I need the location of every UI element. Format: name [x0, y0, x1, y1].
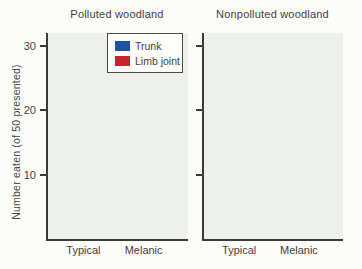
panel-title-nonpolluted: Nonpolluted woodland [202, 8, 343, 20]
y-tick-mark [40, 174, 46, 176]
y-tick-mark [40, 45, 46, 47]
y-tick-mark [40, 109, 46, 111]
figure-peppered-moth-predation: Number eaten (of 50 presented) Polluted … [0, 0, 362, 269]
category-label-melanic: Melanic [280, 244, 318, 256]
legend: Trunk Limb joint [107, 33, 183, 73]
category-label-typical: Typical [222, 244, 256, 256]
legend-label-limb-joint: Limb joint [135, 55, 180, 67]
y-tick-label: 20 [16, 105, 36, 115]
legend-item-trunk: Trunk [115, 40, 182, 52]
legend-label-trunk: Trunk [135, 40, 161, 52]
category-label-melanic: Melanic [125, 244, 163, 256]
y-tick-mark [196, 45, 202, 47]
y-axis-label: Number eaten (of 50 presented) [10, 57, 22, 227]
y-tick-mark [196, 174, 202, 176]
y-tick-mark [196, 109, 202, 111]
trunk-color-swatch [115, 41, 130, 51]
legend-item-limb-joint: Limb joint [115, 55, 182, 67]
y-tick-label: 10 [16, 170, 36, 180]
panel-title-polluted: Polluted woodland [46, 8, 188, 20]
limb-joint-color-swatch [115, 56, 130, 66]
plot-area-nonpolluted: TypicalMelanic [202, 33, 343, 241]
y-tick-label: 30 [16, 41, 36, 51]
category-label-typical: Typical [66, 244, 100, 256]
